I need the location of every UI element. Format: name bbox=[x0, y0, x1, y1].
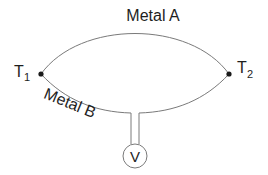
junction-t1-dot bbox=[38, 71, 43, 76]
junction-t2-dot bbox=[226, 71, 231, 76]
junction-t1-label-main: T bbox=[14, 63, 24, 80]
metal-b-label: Metal B bbox=[42, 85, 99, 121]
voltmeter: V bbox=[123, 144, 147, 168]
junction-t1-label: T 1 bbox=[14, 63, 30, 83]
junction-t2-label-sub: 2 bbox=[247, 68, 253, 80]
metal-a-label: Metal A bbox=[126, 7, 180, 24]
junction-t1-label-sub: 1 bbox=[24, 71, 30, 83]
junction-t2-label: T 2 bbox=[237, 59, 253, 80]
thermocouple-diagram: V T 1 T 2 Metal A Metal B bbox=[0, 0, 268, 175]
metal-b-wire-right bbox=[139, 74, 229, 113]
junction-t2-label-main: T bbox=[237, 59, 247, 76]
metal-a-wire bbox=[41, 34, 229, 75]
voltmeter-symbol: V bbox=[130, 148, 140, 165]
